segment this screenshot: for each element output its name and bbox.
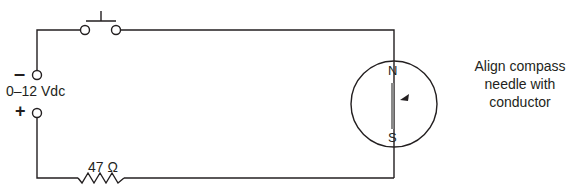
switch-contact-left — [81, 26, 90, 35]
compass-north-label: N — [388, 63, 397, 78]
negative-terminal — [33, 71, 42, 80]
compass-needle — [391, 83, 394, 129]
wire-top — [121, 30, 394, 178]
pointer-arrow-icon — [400, 94, 409, 101]
wire-left-bottom — [37, 118, 78, 178]
resistor-label: 47 Ω — [88, 159, 118, 175]
compass-south-label: S — [388, 130, 397, 145]
positive-terminal — [33, 109, 42, 118]
instruction-text: Align compass needle with conductor — [470, 57, 570, 111]
pushbutton-icon — [86, 11, 116, 21]
wire-left-top — [37, 30, 80, 70]
negative-symbol: – — [14, 62, 25, 85]
switch-contact-right — [112, 26, 121, 35]
supply-voltage-label: 0–12 Vdc — [6, 83, 65, 99]
positive-symbol: + — [15, 101, 26, 122]
